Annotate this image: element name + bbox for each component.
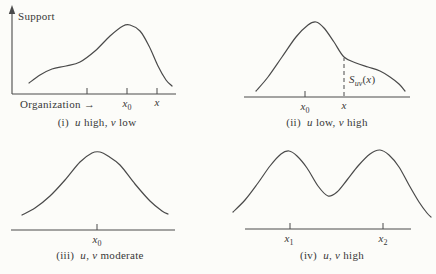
text-segment: 2 (384, 238, 388, 247)
panel-ii-curve (256, 22, 405, 91)
panel-i-tick-label-x0: x0 (122, 97, 131, 114)
text-segment: moderate (97, 249, 143, 261)
panel-i-support-axis-label: Support (18, 10, 55, 22)
panel-i-y-axis-arrowhead-icon (9, 5, 15, 14)
text-segment: low (116, 116, 136, 128)
panel-i-curve (29, 24, 172, 86)
panel-i-caption: (i) u high, v low (58, 116, 137, 128)
text-segment: 0 (98, 239, 102, 248)
text-segment: x (341, 99, 346, 111)
text-segment: (iv) (300, 249, 323, 261)
text-segment: high (340, 249, 364, 261)
panel-ii-tick-label-x0: x0 (300, 100, 309, 117)
text-segment: → (84, 98, 95, 110)
panel-iv-tick-label-x2: x2 (378, 232, 387, 249)
text-segment: (ii) (286, 116, 307, 128)
text-segment: (iii) (56, 249, 80, 261)
panel-ii-caption: (ii) u low, v high (286, 116, 367, 128)
panel-iv-caption: (iv) u, v high (300, 249, 364, 261)
text-segment: Organization (20, 98, 84, 110)
text-segment: 1 (290, 238, 294, 247)
panel-i-organization-axis-label: Organization → (20, 98, 95, 110)
text-segment: 0 (128, 103, 132, 112)
panel-ii-tick-label-x: x (341, 99, 346, 111)
text-segment: x (154, 96, 159, 108)
text-segment: ) (372, 73, 376, 85)
panel-iv-curve (233, 150, 431, 217)
panel-iii-tick-label-x0: x0 (92, 233, 101, 250)
text-segment: (i) (58, 116, 75, 128)
support-functions-figure: (i) u high, v lowSupportOrganization →x0… (0, 0, 436, 274)
text-segment: low, (313, 116, 339, 128)
text-segment: high, (81, 116, 111, 128)
text-segment: 0 (306, 106, 310, 115)
panel-iv-tick-label-x1: x1 (284, 232, 293, 249)
panel-ii (244, 22, 410, 97)
panel-i-tick-label-x: x (154, 96, 159, 108)
panel-iii-caption: (iii) u, v moderate (56, 249, 144, 261)
panel-iii (11, 152, 175, 230)
text-segment: Support (18, 10, 55, 22)
figure-drawing-layer (0, 0, 436, 274)
panel-iv (233, 150, 431, 229)
text-segment: high (344, 116, 368, 128)
panel-ii-suv-function-label: Suv(x) (349, 73, 376, 90)
panel-iii-curve (22, 152, 168, 215)
